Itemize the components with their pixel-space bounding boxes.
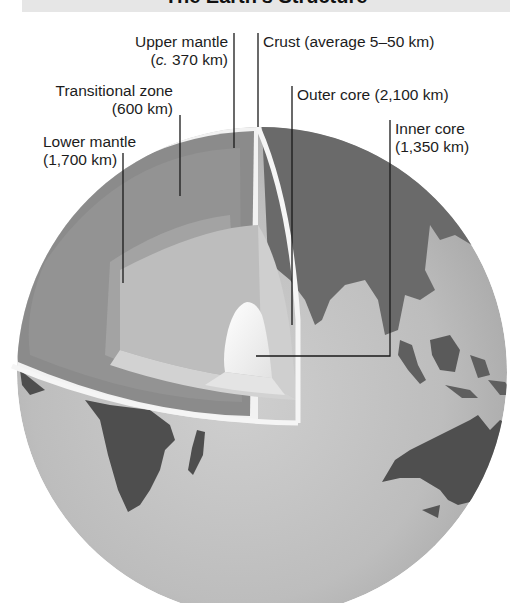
lower-mantle-thickness: (1,700 km)	[43, 151, 136, 169]
inner-core-name: Inner core	[395, 120, 469, 138]
label-lower-mantle: Lower mantle (1,700 km)	[43, 133, 136, 169]
label-crust: Crust (average 5–50 km)	[263, 33, 434, 51]
cutaway-wedge	[10, 127, 297, 423]
lower-mantle-name: Lower mantle	[43, 133, 136, 151]
transitional-zone-thickness: (600 km)	[10, 100, 173, 118]
inner-core-thickness: (1,350 km)	[395, 138, 469, 156]
label-transitional-zone: Transitional zone (600 km)	[10, 82, 173, 118]
upper-mantle-name: Upper mantle	[110, 33, 228, 51]
label-outer-core: Outer core (2,100 km)	[297, 86, 449, 104]
label-inner-core: Inner core (1,350 km)	[395, 120, 469, 156]
transitional-zone-name: Transitional zone	[10, 82, 173, 100]
label-upper-mantle: Upper mantle (c. 370 km)	[110, 33, 228, 69]
upper-mantle-thickness: (c. 370 km)	[110, 51, 228, 69]
